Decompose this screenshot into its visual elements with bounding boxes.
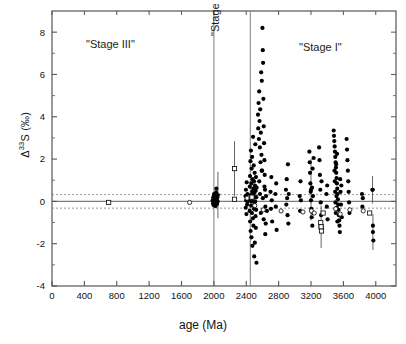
data-point-open-square: [368, 211, 372, 215]
data-point-filled-circle: [253, 171, 257, 175]
y-axis-label-rest: S (‰): [19, 112, 31, 142]
data-point-filled-circle: [268, 190, 272, 194]
data-point-filled-circle: [299, 198, 303, 202]
x-tick-label-3600: 3600: [333, 290, 354, 301]
x-tick-label-400: 400: [76, 290, 92, 301]
data-point-filled-circle: [347, 200, 351, 204]
data-point-filled-circle: [346, 169, 350, 173]
data-point-filled-circle: [248, 159, 252, 163]
data-point-filled-circle: [262, 124, 266, 128]
data-point-open-circle: [253, 204, 257, 208]
data-point-filled-circle: [253, 241, 257, 245]
data-point-filled-circle: [308, 181, 312, 185]
y-axis-label-superscript: 33: [17, 142, 26, 151]
data-point-filled-circle: [284, 202, 288, 206]
data-point-filled-circle: [334, 162, 338, 166]
annotation-stage-one: "Stage I": [299, 41, 342, 53]
x-tick-label-0: 0: [49, 290, 54, 301]
data-point-open-circle: [188, 200, 192, 204]
data-point-filled-circle: [338, 230, 342, 234]
data-point-filled-circle: [333, 200, 337, 204]
data-point-filled-circle: [254, 195, 258, 199]
data-point-filled-circle: [257, 119, 261, 123]
x-axis-label: age (Ma): [0, 318, 406, 332]
data-point-open-square: [319, 220, 323, 224]
data-point-filled-circle: [308, 160, 312, 164]
data-point-filled-circle: [258, 107, 262, 111]
data-point-filled-circle: [311, 194, 315, 198]
data-point-filled-circle: [360, 192, 364, 196]
data-point-filled-circle: [263, 173, 267, 177]
data-point-filled-circle: [257, 179, 261, 183]
data-point-open-square: [319, 229, 323, 233]
error-bar-marker: [371, 230, 375, 234]
data-point-filled-circle: [332, 139, 336, 143]
data-point-filled-circle: [309, 198, 313, 202]
data-point-filled-circle: [252, 163, 256, 167]
data-point-filled-circle: [256, 101, 260, 105]
data-point-filled-circle: [249, 235, 253, 239]
data-point-open-circle: [348, 208, 352, 212]
data-point-filled-circle: [256, 113, 260, 117]
data-point-filled-circle: [260, 79, 264, 83]
y-tick-label-4: 4: [40, 111, 45, 122]
error-bar-marker: [232, 166, 236, 170]
data-point-filled-circle: [258, 160, 262, 164]
data-point-filled-circle: [317, 145, 321, 149]
data-point-filled-circle: [287, 192, 291, 196]
data-point-open-circle: [312, 211, 316, 215]
data-point-filled-circle: [339, 202, 343, 206]
data-point-open-circle: [301, 210, 305, 214]
x-tick-label-2400: 2400: [236, 290, 257, 301]
data-point-filled-circle: [307, 150, 311, 154]
data-point-filled-circle: [253, 199, 257, 203]
data-point-filled-circle: [345, 158, 349, 162]
data-point-filled-circle: [257, 137, 261, 141]
data-point-filled-circle: [285, 177, 289, 181]
data-point-filled-circle: [319, 179, 323, 183]
data-point-filled-circle: [308, 171, 312, 175]
data-point-filled-circle: [216, 199, 220, 203]
y-tick-label-2: 2: [40, 153, 45, 164]
data-point-open-circle: [279, 209, 283, 213]
data-point-filled-circle: [263, 232, 267, 236]
data-point-filled-circle: [264, 221, 268, 225]
data-point-filled-circle: [334, 211, 338, 215]
data-point-filled-circle: [261, 97, 265, 101]
data-point-open-circle: [334, 207, 338, 211]
data-point-filled-circle: [262, 217, 266, 221]
data-point-open-square: [232, 197, 236, 201]
x-tick-label-800: 800: [109, 290, 125, 301]
data-point-filled-circle: [269, 207, 273, 211]
data-point-filled-circle: [371, 224, 375, 228]
data-point-filled-circle: [260, 169, 264, 173]
data-point-filled-circle: [255, 186, 259, 190]
data-point-filled-circle: [254, 226, 258, 230]
data-point-open-circle: [245, 196, 249, 200]
data-point-filled-circle: [335, 219, 339, 223]
data-point-filled-circle: [285, 213, 289, 217]
data-point-filled-circle: [258, 145, 262, 149]
data-point-filled-circle: [252, 179, 256, 183]
data-point-filled-circle: [259, 131, 263, 135]
data-point-filled-circle: [298, 194, 302, 198]
data-point-filled-circle: [270, 198, 274, 202]
data-point-filled-circle: [260, 26, 264, 30]
data-point-filled-circle: [248, 219, 252, 223]
data-point-filled-circle: [361, 196, 365, 200]
y-tick-label--2: -2: [37, 238, 45, 249]
data-point-filled-circle: [334, 194, 338, 198]
x-tick-label-4000: 4000: [365, 290, 386, 301]
data-point-filled-circle: [312, 156, 316, 160]
error-bar-marker: [319, 225, 323, 229]
data-point-filled-circle: [245, 180, 249, 184]
x-tick-label-3200: 3200: [300, 290, 321, 301]
data-point-open-square: [107, 200, 111, 204]
data-point-filled-circle: [259, 153, 263, 157]
data-point-open-circle: [361, 209, 365, 213]
x-tick-label-1600: 1600: [171, 290, 192, 301]
data-point-filled-circle: [257, 89, 261, 93]
data-point-filled-circle: [333, 144, 337, 148]
data-point-filled-circle: [332, 134, 336, 138]
figure-scatter-delta33s-vs-age: 040080012001600200024002800320036004000-…: [0, 0, 406, 344]
